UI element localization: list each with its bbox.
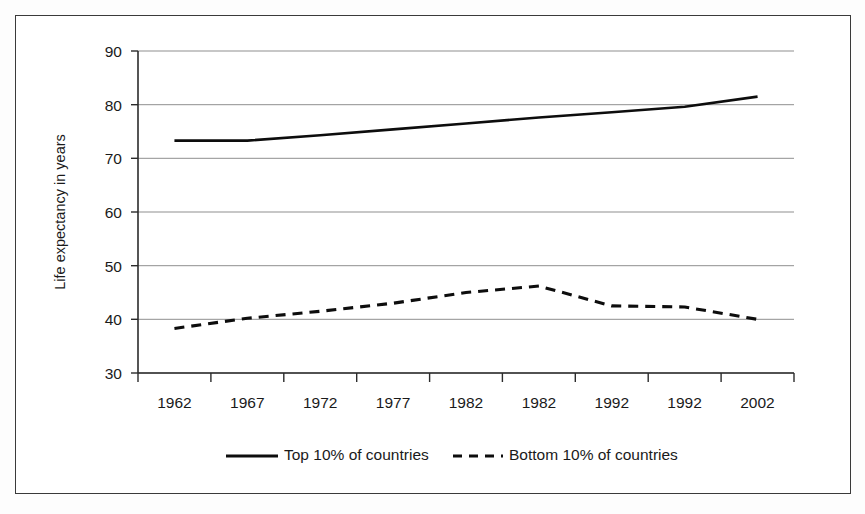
legend-entry-top-10-percent[interactable]: Top 10% of countries — [226, 446, 429, 463]
chart-legend: Top 10% of countries Bottom 10% of count… — [226, 446, 678, 463]
x-tick-label-2: 1972 — [303, 394, 337, 411]
y-tick-label-40: 40 — [105, 311, 123, 328]
series-line-bottom-10-percent — [174, 286, 757, 328]
y-tick-label-80: 80 — [105, 97, 123, 114]
y-tick-label-60: 60 — [105, 204, 123, 221]
y-axis-title: Life expectancy in years — [52, 134, 68, 290]
chart-container: 90 80 70 60 50 40 30 1962 1967 1972 1977… — [16, 16, 852, 495]
legend-label-bottom-10-percent: Bottom 10% of countries — [509, 446, 678, 463]
x-axis-tick-labels: 1962 1967 1972 1977 1982 1982 1992 1992 … — [157, 394, 775, 411]
y-tick-label-90: 90 — [105, 43, 123, 60]
x-tick-label-0: 1962 — [157, 394, 191, 411]
page-background: 90 80 70 60 50 40 30 1962 1967 1972 1977… — [0, 0, 865, 514]
x-tick-label-6: 1992 — [595, 394, 629, 411]
x-tick-label-1: 1967 — [230, 394, 264, 411]
x-axis-ticks — [138, 373, 794, 382]
x-tick-label-7: 1992 — [667, 394, 701, 411]
figure-frame: 90 80 70 60 50 40 30 1962 1967 1972 1977… — [15, 15, 851, 494]
y-axis-tick-labels: 90 80 70 60 50 40 30 — [105, 43, 123, 382]
x-tick-label-8: 2002 — [740, 394, 774, 411]
series-line-top-10-percent — [174, 97, 757, 141]
gridlines — [138, 51, 794, 373]
x-tick-label-3: 1977 — [376, 394, 410, 411]
x-tick-label-4: 1982 — [449, 394, 483, 411]
legend-label-top-10-percent: Top 10% of countries — [284, 446, 429, 463]
y-tick-label-70: 70 — [105, 150, 123, 167]
y-axis-ticks — [131, 51, 138, 373]
y-tick-label-50: 50 — [105, 258, 123, 275]
line-chart: 90 80 70 60 50 40 30 1962 1967 1972 1977… — [16, 16, 852, 495]
y-tick-label-30: 30 — [105, 365, 123, 382]
legend-entry-bottom-10-percent[interactable]: Bottom 10% of countries — [453, 446, 678, 463]
x-tick-label-5: 1982 — [522, 394, 556, 411]
